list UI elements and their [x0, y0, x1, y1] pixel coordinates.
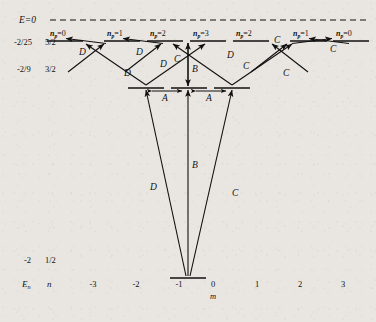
label-C-5: C [330, 44, 337, 54]
energy-value-3-2: -2/9 [17, 64, 31, 74]
svg-text:np=1: np=1 [107, 29, 123, 39]
label-C-2: C [243, 61, 250, 71]
np-value-3: 3 [205, 29, 209, 38]
arrow-D-cross-right [173, 44, 232, 85]
np-value-2: 2 [162, 29, 166, 38]
svg-text:np=2: np=2 [236, 29, 252, 39]
m-axis-label: m [210, 291, 216, 301]
np-value-6: 0 [348, 29, 352, 38]
energy-level-diagram: E=0 np=0 np=1 np=2 np=3 np=2 np=1 np=0 [0, 0, 376, 322]
arrow-C-long-right [232, 44, 292, 85]
svg-text:np=2: np=2 [150, 29, 166, 39]
label-B-1: B [192, 64, 198, 74]
label-C-6: C [232, 188, 239, 198]
np-value-4: 2 [248, 29, 252, 38]
m-tick--1: -1 [175, 279, 182, 289]
label-D-5: D [226, 50, 234, 60]
label-D-4: D [123, 68, 131, 78]
label-C-3: C [283, 68, 290, 78]
axis-header-energy-sub: n [28, 283, 31, 290]
label-A-1: A [161, 93, 168, 103]
np-value-0: 0 [62, 29, 66, 38]
n-value-1-2: 1/2 [45, 255, 56, 265]
axis-header-energy: En [21, 279, 31, 290]
m-tick--3: -3 [89, 279, 96, 289]
arrow-C-long-bottom [190, 90, 232, 276]
label-D-1: D [78, 47, 86, 57]
svg-text:np=1: np=1 [293, 29, 309, 39]
zero-energy-label: E=0 [18, 15, 36, 25]
left-axis-labels: -2/25 5/2 -2/9 3/2 -2 1/2 En n [14, 37, 56, 290]
m-tick-0: 0 [211, 279, 215, 289]
label-D-3: D [159, 59, 167, 69]
m-tick-1: 1 [255, 279, 259, 289]
n-value-3-2: 3/2 [45, 64, 56, 74]
np-labels: np=0 np=1 np=2 np=3 np=2 np=1 np=0 [50, 29, 352, 39]
transitions-3-2-to-5-2 [86, 43, 292, 86]
label-D-6: D [149, 182, 157, 192]
m-axis-ticks: -3 -2 -1 0 1 2 3 m [89, 279, 345, 301]
label-D-2: D [135, 47, 143, 57]
m-tick-2: 2 [298, 279, 302, 289]
label-C-4: C [274, 35, 281, 45]
label-B-2: B [192, 160, 198, 170]
axis-header-n: n [47, 279, 52, 289]
arrow-D-diag-1 [68, 44, 104, 72]
label-A-2: A [205, 93, 212, 103]
np-value-1: 1 [119, 29, 123, 38]
svg-text:np=0: np=0 [336, 29, 352, 39]
transitions-1-2-to-3-2 [146, 90, 232, 276]
label-C-1: C [174, 54, 181, 64]
transition-annotations: D D D D C B D C C C C A A B D C [78, 35, 337, 198]
arrow-C-diag-1 [272, 44, 308, 72]
svg-text:np=3: np=3 [193, 29, 209, 39]
m-tick--2: -2 [132, 279, 139, 289]
energy-value-1-2: -2 [24, 255, 31, 265]
m-tick-3: 3 [341, 279, 345, 289]
np-value-5: 1 [305, 29, 309, 38]
energy-value-5-2: -2/25 [14, 37, 32, 47]
n-value-5-2: 5/2 [45, 37, 56, 47]
